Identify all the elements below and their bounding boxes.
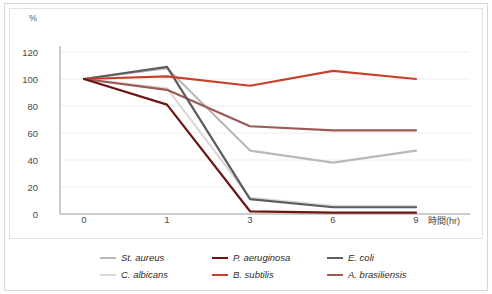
data-series-group bbox=[84, 67, 416, 213]
legend-label-st-aureus: St. aureus bbox=[121, 252, 164, 263]
legend-swatch-icon-c-albicans bbox=[100, 274, 116, 276]
chart-legend: St. aureus P. aeruginosa E. coli C. albi… bbox=[100, 249, 460, 283]
legend-item-a-brasiliensis: A. brasiliensis bbox=[327, 269, 457, 280]
legend-label-c-albicans: C. albicans bbox=[121, 269, 168, 280]
legend-item-b-subtilis: B. subtilis bbox=[212, 269, 327, 280]
gridlines bbox=[60, 52, 470, 187]
legend-item-c-albicans: C. albicans bbox=[100, 269, 212, 280]
series-line-p-aeruginosa bbox=[84, 79, 416, 213]
legend-label-p-aeruginosa: P. aeruginosa bbox=[233, 252, 290, 263]
legend-item-p-aeruginosa: P. aeruginosa bbox=[212, 252, 327, 263]
legend-item-st-aureus: St. aureus bbox=[100, 252, 212, 263]
legend-label-e-coli: E. coli bbox=[348, 252, 374, 263]
legend-swatch-icon-b-subtilis bbox=[212, 274, 228, 276]
legend-swatch-icon-st-aureus bbox=[100, 257, 116, 259]
legend-swatch-icon-a-brasiliensis bbox=[327, 274, 343, 276]
legend-label-b-subtilis: B. subtilis bbox=[233, 269, 274, 280]
series-line-st-aureus bbox=[84, 68, 416, 163]
series-line-e-coli bbox=[84, 67, 416, 207]
legend-swatch-icon-p-aeruginosa bbox=[212, 257, 228, 259]
legend-label-a-brasiliensis: A. brasiliensis bbox=[348, 269, 407, 280]
legend-item-e-coli: E. coli bbox=[327, 252, 457, 263]
legend-swatch-icon-e-coli bbox=[327, 257, 343, 259]
chart-figure: % 時間(hr) 120 100 80 60 40 20 0 0 1 3 6 9 bbox=[0, 0, 492, 294]
